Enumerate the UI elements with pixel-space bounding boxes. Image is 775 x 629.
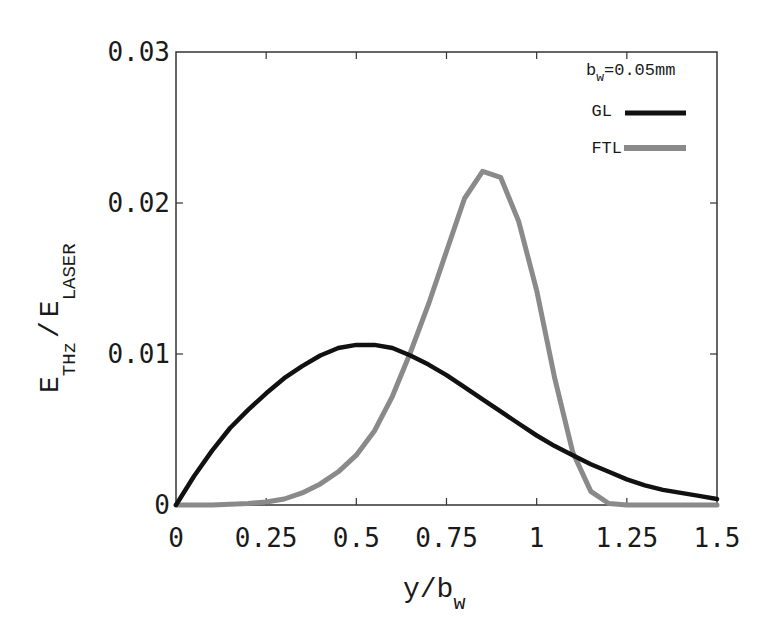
data-series xyxy=(176,171,717,505)
y-tick-label: 0.01 xyxy=(107,339,170,369)
axis-ticks xyxy=(176,52,717,505)
plot-border xyxy=(176,52,717,505)
x-tick-label: 0.75 xyxy=(415,523,478,553)
x-tick-label: 1.5 xyxy=(694,523,741,553)
legend-annotation: bw=0.05mm xyxy=(586,61,675,85)
x-tick-label: 0.25 xyxy=(235,523,298,553)
plot-frame xyxy=(176,52,717,505)
x-tick-label: 0.5 xyxy=(333,523,380,553)
x-tick-label: 1.25 xyxy=(596,523,659,553)
series-line-ftl xyxy=(176,171,717,505)
line-chart: 00.250.50.7511.251.500.010.020.03 bw=0.0… xyxy=(0,0,775,629)
y-tick-label: 0 xyxy=(154,490,170,520)
x-axis-label: y/bw xyxy=(403,574,465,615)
legend-label-ftl: FTL xyxy=(591,139,622,158)
legend: bw=0.05mm GL FTL xyxy=(586,61,686,158)
series-line-gl xyxy=(176,345,717,505)
y-tick-label: 0.03 xyxy=(107,37,170,67)
y-tick-label: 0.02 xyxy=(107,188,170,218)
svg-text:ETHz/ELASER: ETHz/ELASER xyxy=(35,243,81,393)
legend-label-gl: GL xyxy=(592,102,612,121)
y-axis-label: ETHz/ELASER xyxy=(35,243,81,393)
x-tick-label: 0 xyxy=(168,523,184,553)
x-tick-label: 1 xyxy=(529,523,545,553)
